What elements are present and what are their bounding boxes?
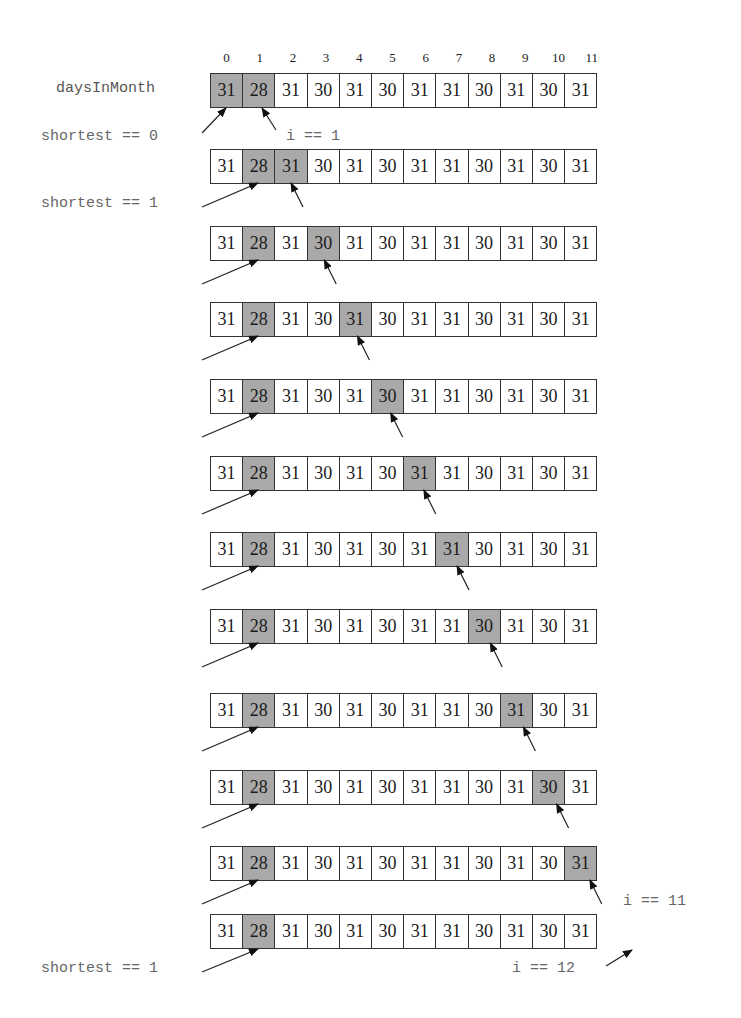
arrow-icon [262,108,276,130]
arrow-icon [391,413,403,437]
arrow-icon [557,804,569,828]
arrow-icon [523,727,535,751]
arrow-icon [202,643,258,667]
arrow-icon [202,804,258,828]
arrow-icon [490,643,502,667]
arrow-icon [202,727,258,751]
arrow-icon [606,950,632,966]
arrow-icon [202,490,258,514]
arrow-icon [291,183,303,207]
arrow-icon [202,880,258,904]
arrow-icon [202,949,258,972]
arrow-icon [457,566,469,590]
arrow-icon [424,490,436,514]
arrow-icon [202,566,258,590]
arrow-icon [324,260,336,284]
arrow-icon [202,108,226,133]
arrow-icon [202,260,258,284]
arrow-icon [202,413,258,437]
arrow-icon [202,183,258,207]
arrow-icon [590,880,602,904]
arrow-icon [357,336,369,360]
arrow-icon [202,336,258,360]
arrows-layer [0,0,741,1018]
